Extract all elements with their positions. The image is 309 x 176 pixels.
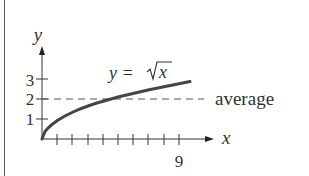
y-tick-label-1: 1 [26, 110, 35, 129]
y-tick-label-2: 2 [26, 90, 35, 109]
curve-label-radicand: x [158, 62, 167, 82]
sqrt-average-diagram: y x 1 2 3 9 y = x average [0, 0, 309, 176]
curve-label-lhs: y = [107, 63, 134, 83]
x-axis-label: x [221, 127, 231, 148]
average-label: average [215, 88, 274, 109]
y-tick-label-3: 3 [26, 71, 35, 90]
y-axis-label: y [32, 24, 43, 45]
y-axis-arrow-icon [39, 46, 45, 55]
sqrt-curve [42, 82, 190, 140]
x-axis-arrow-icon [205, 136, 214, 142]
x-tick-label-9: 9 [175, 152, 184, 171]
